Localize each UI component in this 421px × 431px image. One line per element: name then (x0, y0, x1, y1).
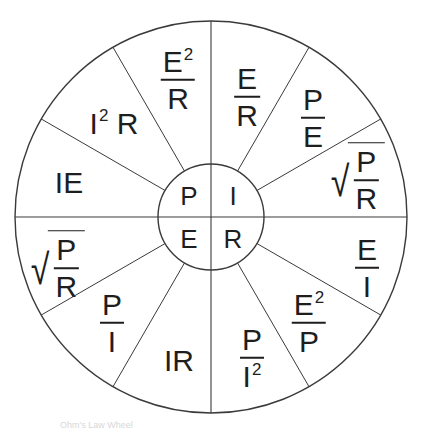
faint-caption: Ohm's Law Wheel (60, 420, 133, 430)
inner-label-power: P (180, 183, 197, 209)
formula-sqrt-p-over-r-left: √ P R (31, 230, 85, 302)
formula-p-over-i: P I (100, 290, 124, 357)
formula-p-over-e: P E (301, 85, 325, 152)
formula-ie: IE (55, 168, 83, 198)
formula-ir: IR (164, 346, 194, 376)
formula-p-over-i-squared: P I2 (240, 325, 264, 392)
formula-sqrt-p-over-r-right: √ P R (331, 142, 385, 214)
formula-e-squared-over-r: E2 R (161, 47, 195, 114)
square-root-icon: √ (331, 159, 350, 202)
formula-e-over-i: E I (355, 235, 379, 302)
formula-i-squared-r: I2 R (90, 109, 139, 139)
square-root-icon: √ (31, 247, 50, 290)
inner-label-resistance: R (224, 226, 243, 252)
inner-label-voltage: E (180, 226, 197, 252)
wheel-diagram (0, 0, 421, 431)
inner-label-current: I (229, 183, 236, 209)
formula-e-over-r: E R (234, 64, 260, 131)
formula-e-squared-over-p: E2 P (292, 290, 326, 357)
